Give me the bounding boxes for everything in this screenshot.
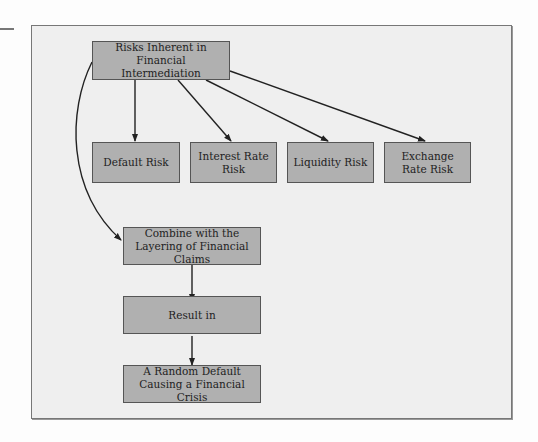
root-line-2: Intermediation bbox=[121, 67, 201, 80]
connector-layer bbox=[0, 0, 538, 442]
interest-rate-risk-box: Interest Rate Risk bbox=[190, 142, 277, 183]
exchange-rate-risk-box: Exchange Rate Risk bbox=[384, 142, 471, 183]
crisis-box: A Random Default Causing a Financial Cri… bbox=[123, 365, 261, 403]
result-in-box: Result in bbox=[123, 296, 261, 334]
liquidity-risk-box: Liquidity Risk bbox=[287, 142, 374, 183]
combine-box: Combine with the Layering of Financial C… bbox=[123, 227, 261, 265]
root-box: Risks Inherent in Financial Intermediati… bbox=[92, 41, 230, 80]
arrow-to-liquidity-risk bbox=[206, 80, 328, 141]
default-risk-box: Default Risk bbox=[92, 142, 180, 183]
root-line-1: Risks Inherent in Financial bbox=[97, 41, 225, 67]
